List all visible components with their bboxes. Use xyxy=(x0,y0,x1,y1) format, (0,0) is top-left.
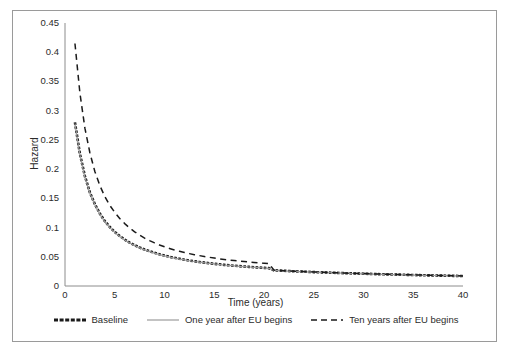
legend-entry-one-year: One year after EU begins xyxy=(146,314,292,325)
series-line-one-year-after-eu-begins xyxy=(75,124,463,277)
legend-label-baseline: Baseline xyxy=(92,314,128,325)
x-axis-label: Time (years) xyxy=(13,297,498,308)
figure: 00.050.10.150.20.250.30.350.40.45 051015… xyxy=(0,0,509,353)
series-line-ten-years-after-eu-begins xyxy=(75,43,463,275)
y-tick-label: 0.3 xyxy=(23,106,59,116)
chart-legend: Baseline One year after EU begins xyxy=(13,314,498,325)
legend-swatch-ten-years xyxy=(310,315,344,325)
y-axis-label: Hazard xyxy=(29,124,40,184)
legend-entry-baseline: Baseline xyxy=(53,314,128,325)
legend-label-ten-years: Ten years after EU begins xyxy=(349,314,458,325)
y-tick-label: 0.05 xyxy=(23,252,59,262)
legend-entry-ten-years: Ten years after EU begins xyxy=(310,314,458,325)
legend-swatch-baseline xyxy=(53,315,87,325)
series-line-baseline xyxy=(75,122,463,276)
plot-area: 00.050.10.150.20.250.30.350.40.45 051015… xyxy=(13,11,498,343)
series-group xyxy=(75,43,463,276)
y-tick-label: 0.15 xyxy=(23,193,59,203)
legend-swatch-one-year xyxy=(146,315,180,325)
chart-frame: 00.050.10.150.20.250.30.350.40.45 051015… xyxy=(12,10,497,342)
y-tick-label: 0.35 xyxy=(23,76,59,86)
y-tick-label: 0.45 xyxy=(23,18,59,28)
y-tick-label: 0.1 xyxy=(23,223,59,233)
y-tick-label: 0.4 xyxy=(23,47,59,57)
legend-label-one-year: One year after EU begins xyxy=(185,314,292,325)
